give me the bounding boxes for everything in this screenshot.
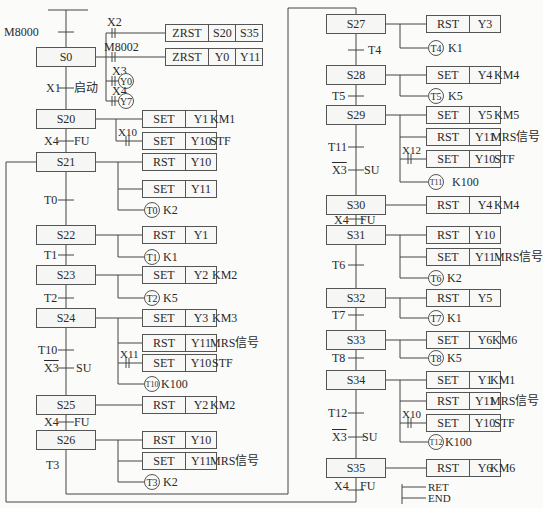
contact-x10-label: X10 xyxy=(118,125,137,139)
trans-x4: X4 xyxy=(44,415,59,429)
note-km2: KM2 xyxy=(210,398,235,412)
instr-rst-y5: RSTY5 xyxy=(426,289,501,307)
trans-x4: X4 xyxy=(334,479,349,493)
timer-t7-k: K1 xyxy=(447,311,462,325)
contact-x10-label: X10 xyxy=(402,407,421,421)
instr-set-y10: SETY10 xyxy=(426,414,501,432)
trans-x3-not: X3 xyxy=(332,163,347,177)
instr-set-y10: SETY10 xyxy=(142,132,217,150)
instr-rst-y10: RSTY10 xyxy=(426,226,501,244)
instr-rst-y1: RSTY1 xyxy=(142,226,217,244)
instr-rst-y10: RSTY10 xyxy=(142,153,217,171)
note-km4: KM4 xyxy=(494,198,519,212)
trans-t6: T6 xyxy=(332,258,345,272)
step-s24: S24 xyxy=(36,308,96,328)
instr-set-y3: SETY3 xyxy=(142,309,217,327)
note-km1: KM1 xyxy=(490,373,515,387)
instr-zrst-s20-s35: ZRSTS20S35 xyxy=(165,24,263,42)
timer-t11-k: K100 xyxy=(452,175,479,189)
note-mrs: MRS信号 xyxy=(494,250,543,264)
trans-x4: X4 xyxy=(44,134,59,148)
note-mrs: MRS信号 xyxy=(491,130,540,144)
step-s25: S25 xyxy=(36,395,96,415)
instr-set-y4: SETY4 xyxy=(426,66,501,84)
trans-x3-not: X3 xyxy=(44,361,59,375)
trans-t7: T7 xyxy=(332,308,345,322)
instr-set-y10: SETY10 xyxy=(142,354,217,372)
step-s22: S22 xyxy=(36,225,96,245)
instr-rst-y10: RSTY10 xyxy=(142,431,217,449)
trans-t4: T4 xyxy=(368,43,381,57)
trans-fu: FU xyxy=(74,134,89,148)
timer-t2: T2 xyxy=(144,290,160,306)
step-s21: S21 xyxy=(36,152,96,172)
timer-t0: T0 xyxy=(144,202,160,218)
step-s29: S29 xyxy=(326,105,386,125)
note-mrs: MRS信号 xyxy=(490,394,539,408)
trans-t11: T11 xyxy=(328,140,347,154)
note-mrs: MRS信号 xyxy=(210,336,259,350)
timer-t3-k: K2 xyxy=(163,475,178,489)
instr-set-y11: SETY11 xyxy=(142,452,217,470)
note-km4: KM4 xyxy=(494,68,519,82)
trans-su: SU xyxy=(76,361,91,375)
timer-t8: T8 xyxy=(428,350,444,366)
instr-set-y5: SETY5 xyxy=(426,106,501,124)
note-km1: KM1 xyxy=(210,112,235,126)
timer-t1-k: K1 xyxy=(163,250,178,264)
step-s26: S26 xyxy=(36,430,96,450)
trans-t3: T3 xyxy=(46,458,59,472)
timer-t0-k: K2 xyxy=(163,203,178,217)
instr-rst-y4: RSTY4 xyxy=(426,196,501,214)
instr-set-y2: SETY2 xyxy=(142,266,217,284)
step-s35: S35 xyxy=(326,458,386,478)
instr-set-y11: SETY11 xyxy=(426,248,501,266)
instr-set-y10: SETY10 xyxy=(426,150,501,168)
trans-t1: T1 xyxy=(44,248,57,262)
step-s34: S34 xyxy=(326,370,386,390)
timer-t10: T10 xyxy=(144,376,160,392)
timer-t12: T12 xyxy=(428,434,444,450)
timer-t11: T11 xyxy=(428,174,444,190)
trans-x1: X1 xyxy=(46,81,61,95)
step-s0: S0 xyxy=(36,47,96,67)
coil-y7: Y7 xyxy=(118,93,134,109)
trans-fu: FU xyxy=(360,479,375,493)
step-s33: S33 xyxy=(326,330,386,350)
instr-set-y1: SETY1 xyxy=(142,110,217,128)
note-km2: KM2 xyxy=(212,268,237,282)
trans-x3-not: X3 xyxy=(332,430,347,444)
note-stf: STF xyxy=(212,356,233,370)
end-label: END xyxy=(428,491,451,505)
init-contact-label: M8000 xyxy=(4,25,39,39)
instr-set-y11: SETY11 xyxy=(142,180,217,198)
trans-su: SU xyxy=(364,163,379,177)
timer-t4: T4 xyxy=(428,40,444,56)
contact-x12-label: X12 xyxy=(402,143,421,157)
timer-t6: T6 xyxy=(428,270,444,286)
step-s23: S23 xyxy=(36,265,96,285)
note-km6: KM6 xyxy=(490,461,515,475)
step-s27: S27 xyxy=(326,14,386,34)
note-km6: KM6 xyxy=(492,333,517,347)
timer-t3: T3 xyxy=(144,474,160,490)
timer-t5-k: K5 xyxy=(448,89,463,103)
note-mrs: MRS信号 xyxy=(210,454,259,468)
instr-rst-y2: RSTY2 xyxy=(142,396,217,414)
timer-t10-k: K100 xyxy=(161,377,188,391)
trans-t8: T8 xyxy=(332,351,345,365)
step-s31: S31 xyxy=(326,225,386,245)
trans-t5: T5 xyxy=(332,89,345,103)
trans-t0: T0 xyxy=(44,193,57,207)
step-s28: S28 xyxy=(326,65,386,85)
trans-t10: T10 xyxy=(38,343,57,357)
contact-x2-label: X2 xyxy=(107,15,122,29)
instr-set-y6: SETY6 xyxy=(426,331,501,349)
trans-t12: T12 xyxy=(328,406,347,420)
note-km5: KM5 xyxy=(494,108,519,122)
instr-rst-y11: RSTY11 xyxy=(142,334,217,352)
timer-t8-k: K5 xyxy=(447,351,462,365)
instr-rst-y11: RSTY11 xyxy=(426,128,501,146)
step-s32: S32 xyxy=(326,288,386,308)
